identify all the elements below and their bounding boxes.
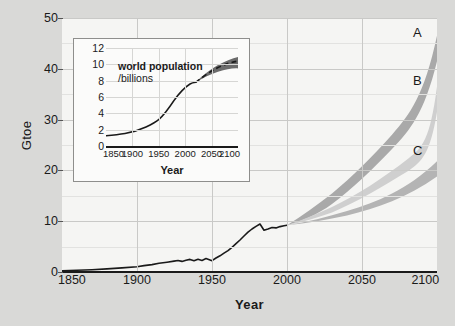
inset-y-tick-12: 12 <box>82 43 104 54</box>
x-tick-2050: 2050 <box>348 274 376 287</box>
y-tick-mark-20 <box>58 170 63 171</box>
gridline-x-2050 <box>362 18 363 272</box>
inset-x-tick-1900: 1900 <box>122 149 143 159</box>
y-tick-mark-30 <box>58 120 63 121</box>
inset-y-tick-0: 0 <box>82 141 104 152</box>
inset-y-tick-2: 2 <box>82 125 104 136</box>
x-tick-1900: 1900 <box>123 274 151 287</box>
inset-gridline-y-4 <box>106 113 238 114</box>
x-tick-2100: 2100 <box>411 274 439 287</box>
y-tick-50: 50 <box>32 12 58 25</box>
main-x-ticks: 1850 1900 1950 2000 2050 2100 <box>62 274 437 292</box>
inset-world-population-chart: 0 2 4 6 8 10 12 1850 1900 1950 2000 2050… <box>73 38 250 182</box>
inset-gridline-y-12 <box>106 48 238 49</box>
x-tick-1850: 1850 <box>58 274 86 287</box>
inset-y-tick-6: 6 <box>82 92 104 103</box>
inset-x-ticks: 1850 1900 1950 2000 2050 2100 <box>106 149 238 163</box>
y-tick-mark-40 <box>58 69 63 70</box>
y-tick-mark-10 <box>58 221 63 222</box>
gridline-y-15 <box>62 196 437 197</box>
gridline-x-2000 <box>287 18 288 272</box>
y-tick-0: 0 <box>32 266 58 279</box>
x-tick-2000: 2000 <box>273 274 301 287</box>
y-tick-mark-50 <box>58 18 63 19</box>
scenario-label-a: A <box>413 26 422 39</box>
y-tick-20: 20 <box>32 164 58 177</box>
inset-y-tick-4: 4 <box>82 108 104 119</box>
y-tick-40: 40 <box>32 63 58 76</box>
inset-x-axis-title: Year <box>106 164 238 176</box>
inset-caption-bold: world population <box>118 60 203 72</box>
inset-y-tick-8: 8 <box>82 76 104 87</box>
gridline-y-10 <box>62 221 437 222</box>
inset-x-tick-2000: 2000 <box>175 149 196 159</box>
x-tick-1950: 1950 <box>198 274 226 287</box>
energy-projection-figure: A B C 0 10 20 30 40 50 1850 1900 1950 20… <box>0 0 455 326</box>
inset-y-tick-10: 10 <box>82 59 104 70</box>
main-x-axis-line <box>62 271 437 273</box>
inset-gridline-y-6 <box>106 97 238 98</box>
scenario-label-c: C <box>413 144 422 157</box>
inset-x-tick-2100: 2100 <box>219 149 240 159</box>
inset-y-ticks: 0 2 4 6 8 10 12 <box>78 48 104 146</box>
gridline-y-50 <box>62 18 437 19</box>
scenario-label-b: B <box>413 74 422 87</box>
inset-x-tick-1950: 1950 <box>148 149 169 159</box>
inset-caption: world population /billions <box>118 61 238 85</box>
population-historical-curve <box>106 82 196 135</box>
inset-caption-units: /billions <box>118 72 153 84</box>
y-tick-30: 30 <box>32 114 58 127</box>
gridline-y-5 <box>62 247 437 248</box>
x-axis-title: Year <box>62 297 437 312</box>
inset-gridline-y-2 <box>106 130 238 131</box>
y-axis-title: Gtoe <box>19 106 34 166</box>
y-tick-10: 10 <box>32 215 58 228</box>
